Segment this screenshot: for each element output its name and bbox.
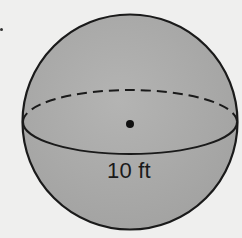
sphere-figure — [0, 0, 242, 238]
center-point — [126, 120, 134, 128]
diameter-label: 10 ft — [0, 158, 242, 184]
sphere-diagram: 10 ft — [0, 0, 242, 238]
